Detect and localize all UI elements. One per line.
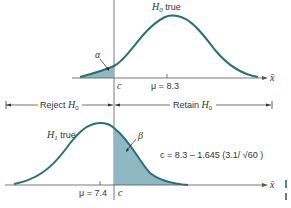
beta-label: β (137, 130, 143, 141)
arrow-right-icon (108, 104, 113, 107)
arrow-left-icon (6, 104, 11, 107)
critical-value-formula: c = 8.3 – 1.645 (3.1/ √60 ) (160, 150, 263, 160)
h1-true-label: H1 true (46, 129, 76, 142)
x-bar-axis-label: x̄ (269, 179, 275, 190)
edge-fragment (285, 180, 287, 188)
mean-h1-label: μ = 7.4 (79, 188, 107, 198)
edge-fragment (285, 193, 287, 200)
reject-h0-label: Reject H0 (40, 99, 79, 111)
x-bar-axis-label: x̄ (269, 72, 275, 83)
retain-h0-label: Retain H0 (173, 99, 213, 111)
hypothesis-test-diagram: H0 true α c μ = 8.3 x̄ Reject H0 Retain … (0, 0, 291, 208)
arrow-right-icon (266, 104, 271, 107)
mean-h0-label: μ = 8.3 (151, 81, 179, 91)
alpha-pointer (100, 59, 108, 69)
critical-value-label: c (117, 80, 122, 91)
h0-true-label: H0 true (151, 1, 181, 14)
alpha-label: α (95, 49, 101, 60)
arrow-right-icon (262, 183, 268, 187)
critical-value-label: c (118, 187, 123, 198)
arrow-left-icon (115, 104, 120, 107)
arrow-right-icon (262, 76, 268, 80)
